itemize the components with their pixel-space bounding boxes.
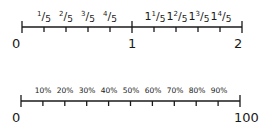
fraction-tick-label: 3/5: [81, 11, 95, 24]
percent-tick-label: 60%: [145, 87, 162, 95]
percent-tick-label: 50%: [123, 87, 140, 95]
fraction-line-mid-label: 1: [128, 37, 136, 50]
percent-tick-label: 40%: [101, 87, 118, 95]
percent-tick-label: 30%: [79, 87, 96, 95]
mixed-fraction-tick-label: 11/5: [145, 11, 166, 24]
percent-tick-label: 20%: [57, 87, 74, 95]
percent-line-start-label: 0: [12, 111, 20, 124]
percent-tick-label: 10%: [35, 87, 52, 95]
fraction-tick-label: 1/5: [37, 11, 51, 24]
fraction-tick-label: 2/5: [59, 11, 73, 24]
mixed-fraction-tick-label: 12/5: [167, 11, 188, 24]
fraction-line-start-label: 0: [12, 37, 20, 50]
percent-tick-label: 90%: [211, 87, 228, 95]
mixed-fraction-tick-label: 14/5: [211, 11, 232, 24]
percent-tick-label: 70%: [167, 87, 184, 95]
mixed-fraction-tick-label: 13/5: [189, 11, 210, 24]
fraction-tick-label: 4/5: [103, 11, 117, 24]
fraction-line-end-label: 2: [234, 37, 242, 50]
percent-line-end-label: 100: [234, 111, 259, 124]
percentage-number-line: [21, 95, 240, 107]
percent-tick-label: 80%: [189, 87, 206, 95]
